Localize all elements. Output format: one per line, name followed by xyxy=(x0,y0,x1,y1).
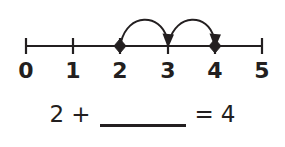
axis-label-1: 1 xyxy=(65,58,80,83)
axis-label-5: 5 xyxy=(254,58,269,83)
equation-first-addend: 2 xyxy=(50,103,65,126)
axis-label-3: 3 xyxy=(160,58,175,83)
number-line-worksheet: 0 1 2 3 4 5 2 + = 4 xyxy=(0,0,285,147)
axis-label-2: 2 xyxy=(112,58,127,83)
axis-label-0: 0 xyxy=(18,58,33,83)
addition-equation: 2 + = 4 xyxy=(0,92,285,137)
answer-blank-input[interactable] xyxy=(100,102,186,127)
number-line-diagram: 0 1 2 3 4 5 xyxy=(0,0,285,90)
equals-sign: = xyxy=(195,103,214,126)
hop-arc-2-to-3 xyxy=(121,20,167,42)
axis-label-4: 4 xyxy=(207,58,222,83)
equation-sum: 4 xyxy=(221,103,236,126)
point-marker-4 xyxy=(209,39,221,53)
plus-sign: + xyxy=(71,103,90,126)
point-marker-2 xyxy=(114,39,126,53)
hop-arc-3-to-4 xyxy=(169,20,214,42)
